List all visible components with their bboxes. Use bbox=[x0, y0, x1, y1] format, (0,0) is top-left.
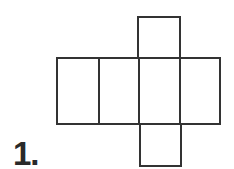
row-face-3 bbox=[139, 58, 180, 124]
row-face-2 bbox=[99, 58, 139, 124]
row-face-1 bbox=[57, 58, 99, 124]
row-face-4 bbox=[180, 58, 220, 124]
figure-number-label: 1. bbox=[13, 139, 39, 169]
top-face bbox=[138, 17, 180, 58]
bottom-face bbox=[140, 124, 181, 166]
